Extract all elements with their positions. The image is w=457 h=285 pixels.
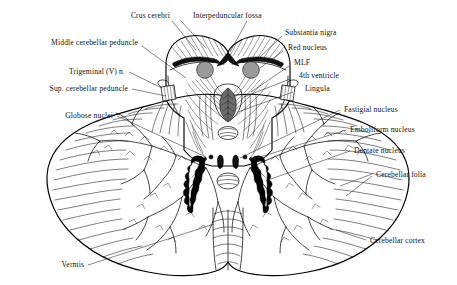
label-vermis: Vermis — [62, 260, 84, 269]
label-cerebellar-folia: Cerebellar folia — [376, 170, 426, 179]
label-substantia-nigra: Substantia nigra — [285, 28, 337, 37]
red-nucleus-right — [243, 62, 260, 79]
label-interpeduncular-fossa: Interpeduncular fossa — [193, 11, 262, 20]
anatomical-figure: Crus cerebri Interpeduncular fossa Subst… — [0, 0, 457, 285]
globose-nucleus-left — [209, 155, 213, 159]
label-fastigial-nucleus: Fastigial nucleus — [344, 105, 398, 114]
label-crus-cerebri: Crus cerebri — [131, 11, 170, 20]
label-sup-cerebellar-peduncle: Sup. cerebellar peduncle — [50, 84, 129, 93]
label-red-nucleus: Red nucleus — [288, 43, 327, 52]
red-nucleus-left — [197, 62, 214, 79]
label-4th-ventricle: 4th ventricle — [299, 71, 340, 80]
label-lingula: Lingula — [305, 84, 330, 93]
label-dentate-nucleus: Dentate nucleus — [354, 146, 405, 155]
label-cerebellar-cortex: Cerebellar cortex — [370, 236, 425, 245]
cerebellum-diagram-svg: Crus cerebri Interpeduncular fossa Subst… — [0, 0, 457, 285]
label-middle-cerebellar-peduncle: Middle cerebellar peduncle — [51, 38, 138, 47]
label-mlf: MLF — [294, 58, 310, 67]
label-globose-nuclei: Globose nuclei — [65, 111, 113, 120]
label-trigeminal-nerve: Trigeminal (V) n. — [69, 67, 125, 76]
label-emboliform-nucleus: Emboliform nucleus — [350, 125, 415, 134]
